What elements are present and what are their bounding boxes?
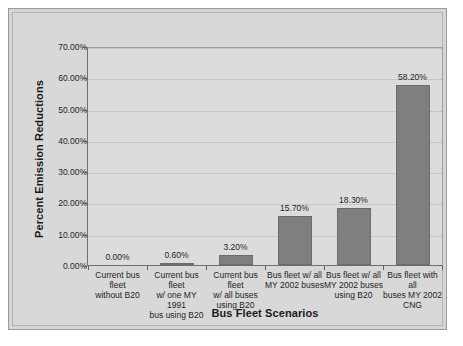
- x-axis-tick-mark: [147, 266, 148, 270]
- x-axis-tick-mark: [88, 266, 89, 270]
- bar-value-label: 3.20%: [223, 243, 247, 252]
- bar-slot: 0.60%: [147, 48, 206, 265]
- y-axis-tick-label: 40.00%: [43, 137, 87, 145]
- x-axis-tick-mark: [265, 266, 266, 270]
- bar-slot: 18.30%: [324, 48, 383, 265]
- y-axis-tick-container: 0.00%10.00%20.00%30.00%40.00%50.00%60.00…: [35, 47, 87, 266]
- bar[interactable]: [278, 216, 312, 265]
- bar-value-label: 0.00%: [105, 253, 129, 262]
- y-axis-tick-label: 70.00%: [43, 43, 87, 51]
- x-axis-tick-label: Current bus fleet without B20: [88, 270, 147, 300]
- x-axis-tick-label: Bus fleet w/ all MY 2002 buses using B20: [324, 270, 383, 300]
- bar-value-label: 18.30%: [339, 196, 368, 205]
- bar-slot: 15.70%: [265, 48, 324, 265]
- x-axis-tick-mark: [383, 266, 384, 270]
- bar-slot: 0.00%: [88, 48, 147, 265]
- bar[interactable]: [160, 263, 194, 265]
- bar-value-label: 15.70%: [280, 204, 309, 213]
- bar-slot: 3.20%: [206, 48, 265, 265]
- bar[interactable]: [219, 255, 253, 265]
- y-axis-tick-label: 10.00%: [43, 231, 87, 239]
- x-axis-title: Bus Fleet Scenarios: [87, 307, 443, 319]
- bar[interactable]: [396, 85, 430, 265]
- x-axis-tick-mark: [324, 266, 325, 270]
- bar-series: 0.00%0.60%3.20%15.70%18.30%58.20%: [88, 48, 442, 265]
- y-axis-tick-label: 60.00%: [43, 74, 87, 82]
- y-axis-tick-label: 50.00%: [43, 106, 87, 114]
- chart-figure-frame: Percent Emission Reductions 0.00%10.00%2…: [8, 8, 447, 330]
- x-axis-tick-label: Bus fleet with all buses MY 2002 CNG: [383, 270, 442, 310]
- y-axis-tick-label: 0.00%: [43, 262, 87, 270]
- x-axis-tick-label: Bus fleet w/ all MY 2002 buses: [265, 270, 324, 290]
- x-axis-tick-labels: Current bus fleet without B20Current bus…: [88, 270, 442, 310]
- y-axis-tick-mark: [83, 266, 87, 267]
- bar-slot: 58.20%: [383, 48, 442, 265]
- y-axis-tick-label: 30.00%: [43, 168, 87, 176]
- bar[interactable]: [337, 208, 371, 265]
- bar-value-label: 58.20%: [398, 73, 427, 82]
- bar-value-label: 0.60%: [164, 251, 188, 260]
- x-axis-tick-mark: [206, 266, 207, 270]
- y-axis-tick-label: 20.00%: [43, 199, 87, 207]
- x-axis-tick-mark: [442, 266, 443, 270]
- x-axis-tick-label: Current bus fleet w/ all buses using B20: [206, 270, 265, 310]
